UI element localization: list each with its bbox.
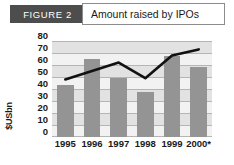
y-axis-tick-label: 50 xyxy=(37,66,48,77)
y-axis-tick-label: 20 xyxy=(37,102,48,113)
y-axis-tick-label: 30 xyxy=(37,90,48,101)
figure-number-tag: FIGURE 2 xyxy=(10,5,85,23)
y-axis-title-label: $USbn xyxy=(4,102,14,130)
chart-container: $USbn 80706050403020100 1995199619971998… xyxy=(0,30,234,165)
figure-header: FIGURE 2 Amount raised by IPOs xyxy=(0,0,234,30)
figure-number-label: FIGURE 2 xyxy=(23,9,72,20)
x-axis-ticks: 199519961997199819992000* xyxy=(52,138,212,154)
y-axis-tick-label: 10 xyxy=(37,114,48,125)
y-axis-title: $USbn xyxy=(2,86,16,146)
trend-line xyxy=(65,49,198,79)
plot-area xyxy=(52,41,212,137)
figure-title-box: Amount raised by IPOs xyxy=(82,3,225,25)
y-axis-tick-label: 60 xyxy=(37,54,48,65)
y-axis-tick-label: 70 xyxy=(37,42,48,53)
y-axis-tick-label: 0 xyxy=(43,126,48,137)
y-axis-tick-label: 40 xyxy=(37,78,48,89)
y-axis-ticks: 80706050403020100 xyxy=(16,35,50,137)
y-axis-tick-label: 80 xyxy=(37,30,48,41)
x-axis-tick-label: 2000* xyxy=(181,138,216,149)
figure-title: Amount raised by IPOs xyxy=(91,8,199,20)
line-series xyxy=(52,41,212,137)
